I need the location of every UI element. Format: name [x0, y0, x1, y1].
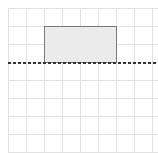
grid-diagram: [0, 0, 158, 153]
shaded-rectangle: [45, 27, 117, 63]
